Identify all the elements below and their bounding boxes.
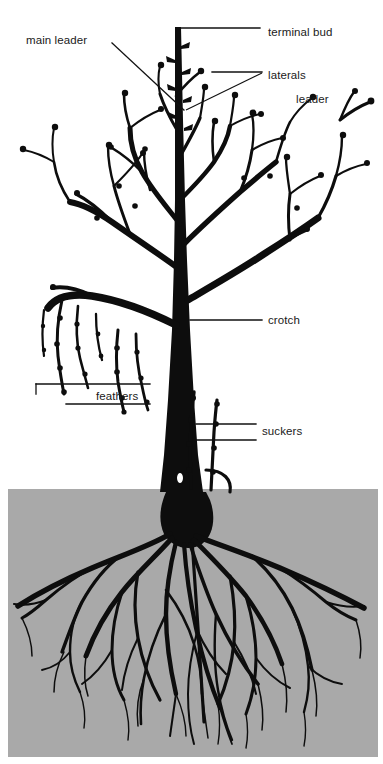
- tree-diagram: main leader terminal bud laterals leader…: [0, 0, 383, 764]
- tree-figure-svg: main leader terminal bud laterals leader…: [0, 0, 383, 764]
- label-main-leader: main leader: [26, 34, 87, 46]
- label-suckers: suckers: [262, 425, 302, 437]
- label-laterals: laterals: [268, 69, 306, 81]
- label-terminal-bud: terminal bud: [268, 26, 332, 38]
- label-feathers: feathers: [96, 390, 139, 402]
- label-crotch: crotch: [268, 314, 300, 326]
- leader-lines: [36, 28, 262, 440]
- buds: [20, 42, 375, 290]
- label-leader: leader: [296, 93, 329, 105]
